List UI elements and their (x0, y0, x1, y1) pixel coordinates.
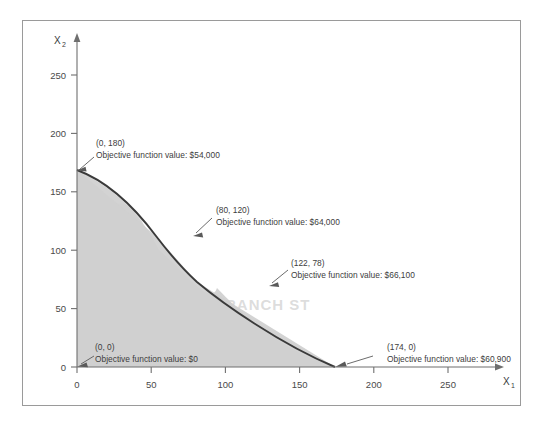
annotation-point-122-78: (122, 78) (291, 258, 325, 268)
annotation-point-174-0: (174, 0) (387, 342, 416, 352)
annotation-point-0-0: (0, 0) (95, 342, 115, 352)
annotation-value-0-0: Objective function value: $0 (95, 354, 198, 364)
leader-arrowhead-vertex-174-0 (336, 362, 347, 367)
leader-arrowhead-vertex-80-120 (193, 233, 203, 238)
y-tick-label-200: 200 (50, 128, 66, 139)
y-tick-label-100: 100 (50, 245, 66, 256)
x-tick-label-100: 100 (217, 379, 233, 390)
y-axis-arrowhead (74, 33, 81, 42)
x-axis-label-subscript: 1 (511, 382, 515, 389)
y-tick-label-0: 0 (61, 362, 66, 373)
leader-arrowhead-vertex-122-78 (269, 282, 279, 287)
annotation-value-122-78: Objective function value: $66,100 (291, 270, 415, 280)
y-tick-label-50: 50 (55, 303, 66, 314)
y-axis-label: X (54, 35, 61, 46)
x-axis-label: X (503, 376, 510, 387)
x-tick-label-200: 200 (366, 379, 382, 390)
linear-programming-chart: THE BRANCH ST 0 50 100 150 200 250 (0, 0, 543, 430)
x-tick-label-50: 50 (146, 379, 157, 390)
leader-line-vertex-80-120 (196, 218, 212, 233)
y-axis-label-subscript: 2 (62, 41, 66, 48)
x-tick-label-150: 150 (292, 379, 308, 390)
y-tick-label-150: 150 (50, 186, 66, 197)
annotation-value-174-0: Objective function value: $60,900 (387, 354, 511, 364)
leader-line-vertex-0-180 (79, 157, 94, 170)
leader-line-vertex-122-78 (272, 270, 288, 283)
y-tick-label-250: 250 (50, 70, 66, 81)
figure-root: THE BRANCH ST 0 50 100 150 200 250 (0, 0, 543, 430)
annotation-point-80-120: (80, 120) (216, 205, 250, 215)
annotation-value-80-120: Objective function value: $64,000 (216, 217, 340, 227)
annotation-point-0-180: (0, 180) (96, 138, 125, 148)
leader-line-vertex-174-0 (347, 356, 373, 364)
x-tick-label-0: 0 (74, 379, 79, 390)
annotation-value-0-180: Objective function value: $54,000 (96, 150, 220, 160)
x-axis-arrowhead (495, 364, 504, 371)
x-tick-label-250: 250 (440, 379, 456, 390)
